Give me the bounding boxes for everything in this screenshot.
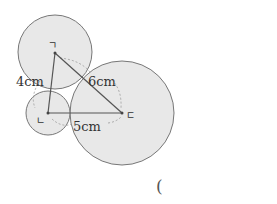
- answer-parenthesis: (: [156, 176, 163, 196]
- label-vertex-b: ㄴ: [36, 115, 45, 126]
- vertex-a: [54, 52, 57, 55]
- label-edge-ab: 4cm: [16, 74, 44, 89]
- triangle-circles-diagram: ㄱ ㄴ ㄷ 4cm 6cm 5cm: [0, 0, 277, 204]
- vertex-c: [121, 112, 124, 115]
- vertex-b: [47, 112, 50, 115]
- label-vertex-c: ㄷ: [126, 110, 135, 121]
- label-vertex-a: ㄱ: [48, 40, 57, 51]
- label-edge-bc: 5cm: [73, 119, 101, 134]
- label-edge-ac: 6cm: [88, 74, 116, 89]
